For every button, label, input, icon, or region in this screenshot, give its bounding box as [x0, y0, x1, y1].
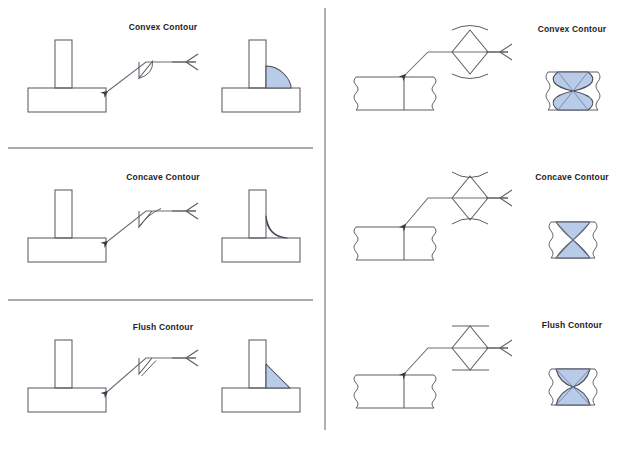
fillet-flush-contour-symbol: [139, 358, 156, 376]
fillet-convex-contour-symbol: [139, 61, 153, 79]
weld-bead-fillet-concave: [266, 216, 287, 238]
weld-bead-groove-convex-bottom: [553, 91, 593, 110]
weld-bead-groove-concave-top: [556, 222, 590, 240]
fillet-convex-joint-drawing: [28, 40, 198, 112]
weld-bead-groove-concave-bottom: [556, 240, 590, 258]
diagram-canvas: [0, 0, 640, 452]
welding-contour-diagram: Convex Contour Concave Contour Flush Con…: [0, 0, 640, 452]
groove-flush-joint-drawing: [354, 340, 512, 408]
groove-concave-joint-drawing: [354, 190, 512, 260]
weld-bead-groove-flush-top: [556, 369, 590, 387]
weld-bead-groove-flush-bottom: [556, 387, 590, 405]
fillet-concave-joint-drawing: [28, 190, 198, 262]
fillet-convex-weld-section: [222, 40, 300, 112]
weld-bead-fillet-flush: [266, 364, 290, 388]
groove-convex-joint-drawing: [354, 44, 512, 110]
fillet-flush-weld-section: [222, 340, 300, 412]
weld-bead-fillet-convex: [266, 66, 291, 88]
weld-bead-groove-convex-top: [553, 72, 593, 91]
fillet-concave-weld-section: [222, 190, 300, 262]
fillet-flush-joint-drawing: [28, 340, 198, 412]
